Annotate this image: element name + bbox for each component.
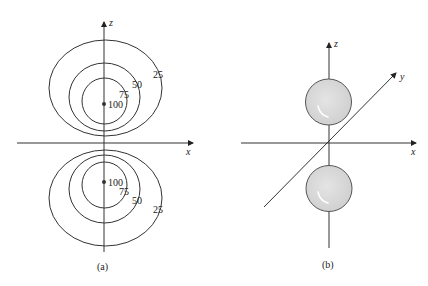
- label-75-upper: 75: [119, 89, 129, 100]
- contour-25-lower: [49, 150, 162, 246]
- maximum-point-upper: [102, 102, 106, 106]
- y-axis-label-b: y: [399, 71, 405, 82]
- label-50-lower: 50: [132, 195, 142, 206]
- panel-b: x z y (b): [241, 38, 416, 271]
- contour-25-upper: [49, 40, 162, 136]
- upper-contours: [49, 40, 162, 136]
- z-axis-label-b: z: [333, 38, 338, 49]
- figure-canvas: 100 75 50 25 100 75 50 25 x z (a) x: [0, 0, 428, 286]
- panel-a: 100 75 50 25 100 75 50 25 x z (a): [17, 17, 193, 273]
- label-75-lower: 75: [119, 186, 129, 197]
- z-axis-label-a: z: [108, 17, 113, 28]
- maximum-point-lower: [102, 180, 106, 184]
- label-50-upper: 50: [132, 79, 142, 90]
- lower-contours: [49, 150, 162, 246]
- caption-b: (b): [322, 259, 334, 271]
- x-axis-label-b: x: [410, 146, 416, 157]
- label-25-upper: 25: [153, 69, 163, 80]
- label-25-lower: 25: [153, 204, 163, 215]
- x-axis-label-a: x: [185, 146, 191, 157]
- label-100-upper: 100: [108, 99, 123, 110]
- sphere-lower: [306, 166, 352, 212]
- caption-a: (a): [97, 261, 108, 273]
- sphere-upper: [306, 79, 352, 125]
